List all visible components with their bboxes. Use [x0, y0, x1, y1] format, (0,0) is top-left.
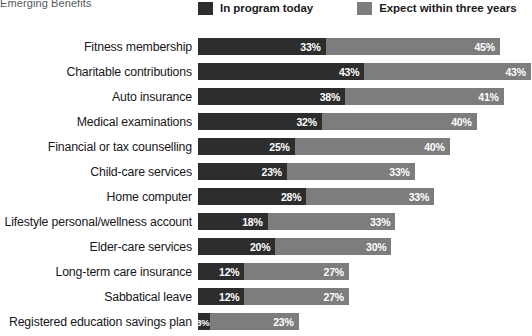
bar-value-in-program-today: 18%: [242, 216, 262, 228]
bar-segment-expect-within-three-years: 33%: [287, 163, 415, 180]
chart-row-label: Registered education savings plan: [0, 315, 192, 329]
bar-value-in-program-today: 12%: [219, 291, 239, 303]
chart-row-label: Financial or tax counselling: [0, 140, 192, 154]
bar-segment-in-program-today: 28%: [198, 188, 306, 205]
bar-segment-in-program-today: 20%: [198, 238, 275, 255]
bar-segment-expect-within-three-years: 27%: [244, 263, 348, 280]
bar-segment-in-program-today: 18%: [198, 213, 268, 230]
chart-row: Lifestyle personal/wellness account18%33…: [0, 213, 532, 230]
bar-segment-expect-within-three-years: 33%: [306, 188, 434, 205]
chart-row-bars: 38%41%: [198, 88, 504, 105]
bar-segment-expect-within-three-years: 43%: [364, 63, 530, 80]
chart-row-label: Medical examinations: [0, 115, 192, 129]
bar-segment-in-program-today: 25%: [198, 138, 295, 155]
chart-row: Home computer28%33%: [0, 188, 532, 205]
bar-value-in-program-today: 38%: [320, 91, 340, 103]
bar-value-expect-within-three-years: 27%: [324, 291, 344, 303]
bar-segment-expect-within-three-years: 40%: [322, 113, 477, 130]
chart-row-bars: 32%40%: [198, 113, 477, 130]
bar-value-in-program-today: 23%: [262, 166, 282, 178]
bar-segment-in-program-today: 32%: [198, 113, 322, 130]
bar-value-expect-within-three-years: 27%: [324, 266, 344, 278]
chart-row-label: Auto insurance: [0, 90, 192, 104]
bar-value-in-program-today: 43%: [339, 66, 359, 78]
chart-row: Charitable contributions43%43%: [0, 63, 532, 80]
chart-row: Auto insurance38%41%: [0, 88, 532, 105]
bar-value-expect-within-three-years: 33%: [409, 191, 429, 203]
chart-plot-area: Fitness membership33%45%Charitable contr…: [0, 0, 532, 336]
chart-row: Sabbatical leave12%27%: [0, 288, 532, 305]
bar-value-expect-within-three-years: 40%: [451, 116, 471, 128]
chart-row: Financial or tax counselling25%40%: [0, 138, 532, 155]
bar-value-in-program-today: 33%: [300, 41, 320, 53]
chart-row: Registered education savings plan3%23%: [0, 313, 532, 330]
bar-value-expect-within-three-years: 43%: [505, 66, 525, 78]
chart-row-bars: 43%43%: [198, 63, 531, 80]
chart-row-bars: 3%23%: [198, 313, 299, 330]
chart-row-label: Lifestyle personal/wellness account: [0, 215, 192, 229]
chart-row: Long-term care insurance12%27%: [0, 263, 532, 280]
bar-segment-expect-within-three-years: 33%: [268, 213, 396, 230]
bar-segment-in-program-today: 3%: [198, 313, 210, 330]
chart-row-bars: 12%27%: [198, 288, 349, 305]
bar-segment-expect-within-three-years: 23%: [210, 313, 299, 330]
bar-value-expect-within-three-years: 40%: [424, 141, 444, 153]
chart-row-bars: 18%33%: [198, 213, 395, 230]
chart-row: Fitness membership33%45%: [0, 38, 532, 55]
bar-segment-expect-within-three-years: 41%: [345, 88, 504, 105]
bar-segment-in-program-today: 43%: [198, 63, 364, 80]
bar-value-expect-within-three-years: 33%: [370, 216, 390, 228]
chart-row-bars: 28%33%: [198, 188, 434, 205]
chart-row-bars: 12%27%: [198, 263, 349, 280]
chart-row-label: Elder-care services: [0, 240, 192, 254]
chart-row: Medical examinations32%40%: [0, 113, 532, 130]
bar-value-in-program-today: 3%: [198, 316, 210, 327]
chart-row-bars: 23%33%: [198, 163, 415, 180]
bar-segment-in-program-today: 12%: [198, 288, 244, 305]
chart-row-label: Long-term care insurance: [0, 265, 192, 279]
bar-segment-in-program-today: 33%: [198, 38, 326, 55]
chart-row-label: Sabbatical leave: [0, 290, 192, 304]
bar-value-in-program-today: 28%: [281, 191, 301, 203]
bar-segment-expect-within-three-years: 40%: [295, 138, 450, 155]
chart-row: Child-care services23%33%: [0, 163, 532, 180]
chart-row: Elder-care services20%30%: [0, 238, 532, 255]
bar-value-in-program-today: 32%: [296, 116, 316, 128]
bar-value-expect-within-three-years: 30%: [366, 241, 386, 253]
bar-segment-in-program-today: 38%: [198, 88, 345, 105]
bar-segment-expect-within-three-years: 30%: [275, 238, 391, 255]
bar-segment-in-program-today: 12%: [198, 263, 244, 280]
bar-segment-in-program-today: 23%: [198, 163, 287, 180]
bar-value-expect-within-three-years: 23%: [273, 316, 293, 328]
chart-row-label: Fitness membership: [0, 40, 192, 54]
chart-row-bars: 33%45%: [198, 38, 500, 55]
bar-segment-expect-within-three-years: 45%: [326, 38, 500, 55]
chart-row-label: Child-care services: [0, 165, 192, 179]
chart-row-label: Charitable contributions: [0, 65, 192, 79]
bar-value-expect-within-three-years: 33%: [389, 166, 409, 178]
bar-value-expect-within-three-years: 45%: [474, 41, 494, 53]
chart-row-bars: 25%40%: [198, 138, 450, 155]
bar-value-in-program-today: 25%: [269, 141, 289, 153]
bar-value-in-program-today: 20%: [250, 241, 270, 253]
chart-row-label: Home computer: [0, 190, 192, 204]
chart-row-bars: 20%30%: [198, 238, 391, 255]
bar-segment-expect-within-three-years: 27%: [244, 288, 348, 305]
bar-value-expect-within-three-years: 41%: [478, 91, 498, 103]
bar-value-in-program-today: 12%: [219, 266, 239, 278]
